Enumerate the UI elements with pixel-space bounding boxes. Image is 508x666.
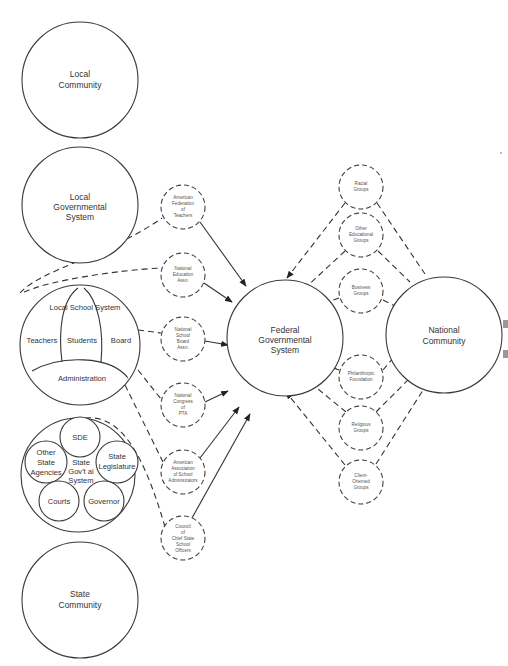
label-line: Foundation <box>350 377 373 382</box>
label-line: Chief State <box>172 536 195 541</box>
link-racial-national <box>377 203 425 274</box>
students-label: Students <box>67 336 97 345</box>
group-ncpta: National Congress of PTA <box>161 383 205 427</box>
label-line: Oriented <box>352 479 370 484</box>
label-line: Groups <box>353 187 369 192</box>
state-community-node: State Community <box>22 542 138 658</box>
label-line: Groups <box>353 238 369 243</box>
label-line: School <box>176 542 190 547</box>
group-racial: Racial Groups <box>339 165 383 209</box>
group-philanthropic: Philanthropic Foundation <box>339 355 383 399</box>
label-line: Business <box>352 285 371 290</box>
label-line: Groups <box>353 485 369 490</box>
label-line: Other <box>37 448 56 457</box>
governor-label: Governor <box>88 497 120 506</box>
dashed-link-school-nsba <box>138 330 161 333</box>
label-line: National <box>175 327 192 332</box>
group-nsba: National School Board Assn. <box>161 317 205 361</box>
arrow-ncpta-federal <box>205 391 228 402</box>
group-nea: National Education Assn. <box>161 253 205 297</box>
label-line: Assn. <box>177 345 189 350</box>
label-line: Community <box>59 600 103 610</box>
label-line: System <box>271 345 299 355</box>
link-othered-national <box>378 251 410 282</box>
link-client-national <box>376 387 425 464</box>
label-line: Local <box>70 192 90 202</box>
arrow-aasa-federal <box>200 407 239 458</box>
state-governmental-system-node: SDE Other State Agencies State Legislatu… <box>21 417 138 532</box>
label-line: Federal <box>271 325 300 335</box>
group-aasa: American Association of School Administr… <box>161 450 205 494</box>
group-aft: American Federation of Teachers <box>161 185 205 229</box>
label-line: State <box>108 452 126 461</box>
label-line: Governmental <box>53 202 106 212</box>
teachers-label: Teachers <box>27 336 58 345</box>
dashed-link-school-ncpta <box>138 370 161 399</box>
link-business-national <box>383 300 395 306</box>
courts-label: Courts <box>48 497 71 506</box>
federal-governmental-system-node: Federal Governmental System <box>227 280 343 396</box>
local-governmental-system-node: Local Governmental System <box>22 147 138 263</box>
group-ccsso: Council of Chief State School Officers <box>161 516 205 560</box>
label-line: Administrators <box>168 478 198 483</box>
label-line: Governmental <box>258 335 311 345</box>
label-line: Community <box>423 336 467 346</box>
label-line: School <box>176 333 190 338</box>
local-school-system-node: Local School System Teachers Students Bo… <box>20 285 140 405</box>
group-religious: Religious Groups <box>339 406 383 450</box>
label-line: National <box>175 266 192 271</box>
label-line: American <box>173 195 193 200</box>
label-line: Local <box>70 69 90 79</box>
arrow-nsba-federal <box>205 341 228 345</box>
label-line: Religious <box>352 422 372 427</box>
administration-label: Administration <box>58 374 106 383</box>
label-line: State <box>37 458 55 467</box>
label-line: Gov't al <box>68 467 94 476</box>
label-line: Education <box>173 272 194 277</box>
arrow-racial-federal <box>287 203 345 278</box>
label-line: Association <box>171 466 195 471</box>
label-line: System <box>68 476 93 485</box>
group-business: Business Groups <box>339 269 383 313</box>
label-line: Congress <box>173 399 193 404</box>
system-diagram: Local Community Local Governmental Syste… <box>0 0 508 666</box>
label-line: Community <box>59 80 103 90</box>
label-line: Council <box>175 524 190 529</box>
arrow-client-federal <box>286 392 345 465</box>
label-line: Officers <box>175 548 191 553</box>
label-line: Agencies <box>30 468 61 477</box>
label-line: of School <box>173 472 192 477</box>
label-line: PTA <box>179 411 189 416</box>
group-client-oriented: Client- Oriented Groups <box>339 460 383 504</box>
label-line: Other <box>355 226 367 231</box>
local-community-node: Local Community <box>22 22 138 138</box>
board-label: Board <box>111 336 131 345</box>
label-line: Board <box>177 339 190 344</box>
label-line: Groups <box>353 291 369 296</box>
label-line: Educational <box>349 232 373 237</box>
arrow-nea-federal <box>204 283 232 302</box>
label-line: American <box>173 460 193 465</box>
label-line: Groups <box>353 428 369 433</box>
arrow-othered-federal <box>303 251 345 290</box>
label-line: Client- <box>354 473 368 478</box>
group-other-educational: Other Educational Groups <box>339 213 383 257</box>
label-line: Legislature <box>98 462 135 471</box>
sde-label: SDE <box>72 433 88 442</box>
label-line: National <box>175 393 192 398</box>
arrow-aft-federal <box>200 222 246 286</box>
label-line: National <box>428 325 459 335</box>
label-line: Teachers <box>174 213 193 218</box>
label-line: System <box>66 212 94 222</box>
label-line: Assn. <box>177 278 189 283</box>
label-line: Racial <box>355 181 368 186</box>
national-community-node: National Community <box>386 277 502 393</box>
label-line: Federation <box>172 201 194 206</box>
school-system-title: Local School System <box>50 303 121 312</box>
label-line: State <box>72 458 90 467</box>
label-line: Philanthropic <box>348 371 375 376</box>
label-line: State <box>70 589 90 599</box>
